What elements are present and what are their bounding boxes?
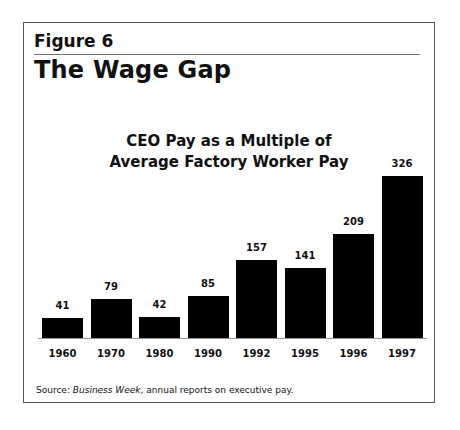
bar-1960 xyxy=(42,318,83,338)
value-label: 326 xyxy=(372,158,432,169)
bar-1992 xyxy=(236,260,277,338)
bar-1997 xyxy=(382,176,423,338)
x-axis-baseline xyxy=(38,338,427,339)
bar-1980 xyxy=(139,317,180,338)
source-note: Source: Business Week, annual reports on… xyxy=(36,385,293,395)
bar-1970 xyxy=(91,299,132,338)
source-prefix: Source: xyxy=(36,385,73,395)
value-label: 79 xyxy=(81,281,141,292)
value-label: 209 xyxy=(324,216,384,227)
bar-plot: 4119607919704219808519901571992141199520… xyxy=(24,23,434,402)
bar-1996 xyxy=(333,234,374,338)
figure-frame: Figure 6 The Wage Gap CEO Pay as a Multi… xyxy=(23,22,435,403)
value-label: 141 xyxy=(275,250,335,261)
bar-1995 xyxy=(285,268,326,338)
source-rest: , annual reports on executive pay. xyxy=(141,385,294,395)
value-label: 85 xyxy=(178,278,238,289)
category-label: 1997 xyxy=(372,348,432,359)
value-label: 42 xyxy=(130,299,190,310)
value-label: 41 xyxy=(33,300,93,311)
bar-1990 xyxy=(188,296,229,338)
source-publication: Business Week xyxy=(73,385,141,395)
